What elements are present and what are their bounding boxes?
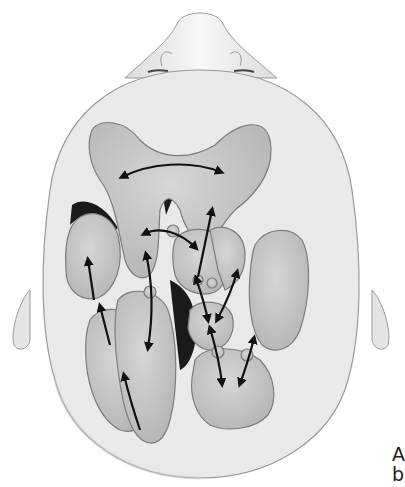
left-ear [13,290,30,349]
bottom-right-lobe [192,349,274,429]
right-tall-lobe [249,230,308,350]
nose [125,13,277,78]
center-lower-lobe [188,302,233,350]
caption-line-1: A [392,443,405,465]
caption-line-2: b [392,463,404,485]
right-ear [372,290,389,349]
